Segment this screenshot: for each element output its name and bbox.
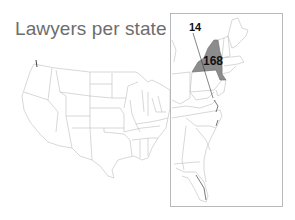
us-map: 14 168: [0, 0, 295, 220]
us-outline: [22, 64, 170, 178]
coast-mark: [36, 60, 37, 67]
label-168: 168: [203, 54, 223, 68]
label-14: 14: [189, 21, 202, 33]
